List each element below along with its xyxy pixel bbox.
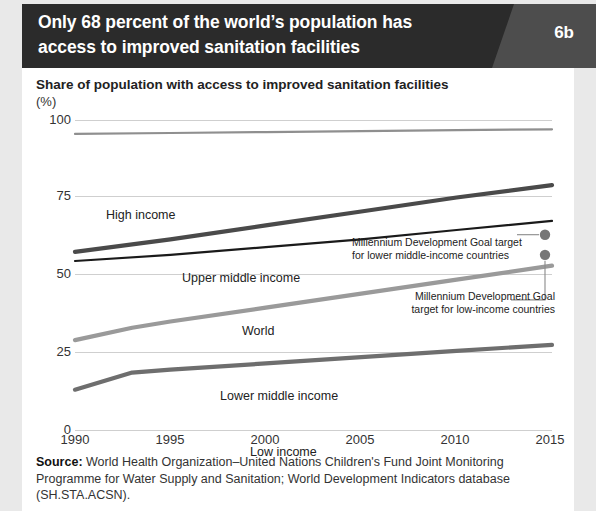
chart-series-svg <box>22 68 574 468</box>
annotation-mdg-lower-middle-income: Millennium Development Goal target for l… <box>352 236 547 262</box>
series-line-high-income <box>75 129 552 134</box>
annotation-line-1: Millennium Development Goal target <box>352 236 547 249</box>
series-label-world: World <box>242 324 274 338</box>
page-root: Only 68 percent of the world’s populatio… <box>0 0 596 511</box>
figure-number-badge: 6b <box>554 23 574 43</box>
chart-plot-area: 100 75 50 25 0 1990 1995 2000 2005 2010 … <box>22 68 574 468</box>
source-text: World Health Organization–United Nations… <box>36 455 510 502</box>
annotation-line-1: Millennium Development Goal <box>377 290 555 303</box>
annotation-line-2: for lower middle-income countries <box>352 249 547 262</box>
badge-panel <box>492 4 596 68</box>
source-note: Source: World Health Organization–United… <box>36 454 564 504</box>
source-label: Source: <box>36 455 83 469</box>
series-label-high-income: High income <box>106 208 175 222</box>
series-label-lower-middle-income: Lower middle income <box>220 389 338 403</box>
series-label-upper-middle-income: Upper middle income <box>182 271 300 285</box>
chart-card: Share of population with access to impro… <box>22 68 574 511</box>
series-line-low-income <box>75 345 552 390</box>
page-title: Only 68 percent of the world’s populatio… <box>38 10 468 60</box>
annotation-line-2: target for low-income countries <box>377 303 555 316</box>
chart-header-bar: Only 68 percent of the world’s populatio… <box>22 4 596 68</box>
annotation-mdg-low-income: Millennium Development Goal target for l… <box>377 290 555 316</box>
